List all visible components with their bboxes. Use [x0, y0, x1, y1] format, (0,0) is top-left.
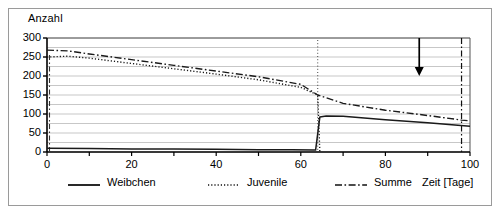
y-tick-label: 50 [7, 126, 41, 138]
x-tick-label: 100 [450, 158, 490, 170]
y-tick-label: 150 [7, 88, 41, 100]
legend-key-weibchen [67, 180, 101, 190]
y-tick-label: 200 [7, 69, 41, 81]
x-axis-label: Zeit [Tage] [422, 176, 473, 188]
legend-key-juvenile [207, 180, 241, 190]
legend-label-weibchen: Weibchen [107, 176, 156, 188]
x-tick-label: 0 [27, 158, 67, 170]
legend-key-summe [334, 180, 368, 190]
x-tick-label: 80 [365, 158, 405, 170]
chart-figure: Anzahl 050100150200250300 020406080100 W… [0, 0, 502, 215]
x-tick-label: 40 [196, 158, 236, 170]
y-tick-label: 100 [7, 107, 41, 119]
annotation-arrow-head [415, 67, 424, 76]
y-tick-label: 300 [7, 31, 41, 43]
legend-label-juvenile: Juvenile [247, 176, 287, 188]
x-tick-label: 60 [281, 158, 321, 170]
legend-label-summe: Summe [374, 176, 412, 188]
x-tick-label: 20 [112, 158, 152, 170]
y-tick-label: 0 [7, 145, 41, 157]
y-tick-label: 250 [7, 50, 41, 62]
chart-legend: WeibchenJuvenileSumme [47, 176, 477, 196]
